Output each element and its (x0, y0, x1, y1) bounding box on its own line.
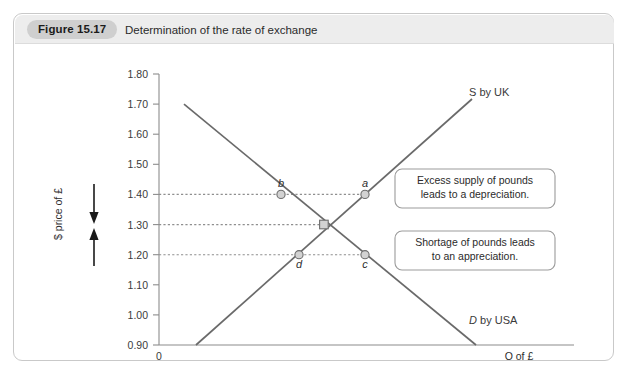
figure-header: Figure 15.17 Determination of the rate o… (15, 15, 614, 44)
demand-curve-label-rest: by USA (477, 314, 518, 326)
point-label-b: b (278, 177, 284, 189)
origin-label: 0 (156, 350, 162, 360)
y-tick-label: 1.50 (128, 158, 149, 170)
y-tick-label: 1.30 (128, 219, 149, 231)
y-axis-title: $ price of £ (52, 188, 64, 240)
figure-caption: Determination of the rate of exchange (125, 21, 317, 39)
depreciation-direction-arrow (89, 184, 98, 224)
y-tick-label: 1.80 (128, 68, 149, 80)
y-tick-label: 1.00 (128, 309, 149, 321)
point-label-c: c (362, 258, 368, 270)
y-tick-label: 1.70 (128, 98, 149, 110)
figure-card: Figure 15.17 Determination of the rate o… (13, 13, 614, 361)
y-tick-label: 1.20 (128, 249, 149, 261)
figure-screenshot: Figure 15.17 Determination of the rate o… (0, 0, 629, 379)
y-tick-label: 0.90 (128, 339, 149, 351)
y-tick-label: 1.40 (128, 188, 149, 200)
annotation-shortage-line2: to an appreciation. (432, 250, 518, 262)
chart-area: 1.80 1.70 1.60 1.50 1.40 1.30 1.20 1.10 … (14, 44, 613, 360)
y-tick-label: 1.60 (128, 128, 149, 140)
chart-svg: 1.80 1.70 1.60 1.50 1.40 1.30 1.20 1.10 … (14, 44, 613, 360)
point-marker-b (277, 190, 285, 198)
annotation-excess-supply-line2: leads to a depreciation. (421, 188, 530, 200)
x-axis-title: Q of £ (505, 350, 534, 360)
point-label-d: d (296, 258, 303, 270)
annotation-shortage: Shortage of pounds leads to an appreciat… (395, 231, 555, 270)
y-axis-ticks (153, 74, 159, 345)
equilibrium-marker (320, 220, 329, 229)
supply-curve-label: S by UK (469, 86, 510, 98)
point-marker-a (361, 190, 369, 198)
point-label-a: a (362, 177, 368, 189)
figure-number-badge: Figure 15.17 (27, 20, 117, 39)
demand-curve-label: D by USA (469, 314, 518, 326)
demand-curve (184, 104, 476, 345)
y-tick-label: 1.10 (128, 279, 149, 291)
appreciation-direction-arrow (89, 228, 98, 266)
annotation-excess-supply-line1: Excess supply of pounds (417, 174, 533, 186)
annotation-shortage-line1: Shortage of pounds leads (415, 236, 535, 248)
annotation-excess-supply: Excess supply of pounds leads to a depre… (395, 169, 555, 208)
y-axis-tick-labels: 1.80 1.70 1.60 1.50 1.40 1.30 1.20 1.10 … (128, 68, 149, 351)
demand-curve-label-prefix: D (469, 314, 477, 326)
